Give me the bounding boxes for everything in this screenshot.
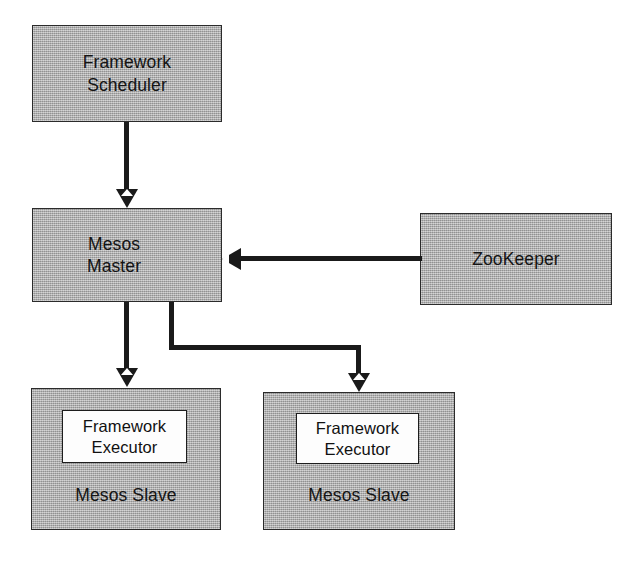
node-zookeeper[interactable]: ZooKeeper [420,213,612,305]
edge-zookeeper-to-master-arrowhead [222,248,241,270]
node-mesos-master-label: Mesos Master [87,233,141,277]
node-mesos-master[interactable]: Mesos Master [32,208,222,302]
node-mesos-slave-right[interactable]: Framework Executor Mesos Slave [263,392,455,530]
edge-master-to-slave-left-arrowhead [116,368,138,387]
node-mesos-slave-right-label: Mesos Slave [264,485,454,506]
edge-master-to-slave-right-segment-vertical-1 [169,302,174,350]
edge-master-to-slave-right-segment-vertical-2 [356,345,361,376]
node-framework-scheduler-label: Framework Scheduler [83,51,171,95]
node-framework-scheduler[interactable]: Framework Scheduler [32,25,222,122]
diagram-canvas: Framework Scheduler Mesos Master ZooKeep… [0,0,632,561]
node-mesos-slave-left[interactable]: Framework Executor Mesos Slave [31,388,221,530]
edge-master-to-slave-right-arrowhead [348,373,370,392]
edge-master-to-slave-left-line [124,302,129,370]
edge-scheduler-to-master-arrowhead [116,189,138,208]
edge-master-to-slave-right-segment-horizontal [169,345,361,350]
edge-zookeeper-to-master-line [240,256,422,261]
node-zookeeper-label: ZooKeeper [472,248,560,270]
node-mesos-slave-left-label: Mesos Slave [32,485,220,506]
node-framework-executor-left-label: Framework Executor [83,416,166,457]
node-framework-executor-right[interactable]: Framework Executor [296,413,419,464]
edge-scheduler-to-master-line [124,122,129,192]
node-framework-executor-left[interactable]: Framework Executor [62,410,187,463]
node-framework-executor-right-label: Framework Executor [316,418,399,459]
